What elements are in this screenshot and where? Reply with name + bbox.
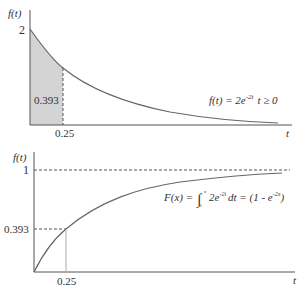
y-axis-label: f(t) [8, 7, 22, 20]
x-tick-025: 0.25 [57, 275, 77, 287]
pdf-chart: f(t) 2 0.393 0.25 t f(t) = 2e-2tt ≥ 0 [8, 7, 292, 139]
svg-text:x: x [203, 189, 207, 194]
svg-text:0: 0 [199, 203, 202, 208]
y-tick-0393: 0.393 [4, 223, 29, 235]
svg-text:2e-2tdt = (1 - e-2x): 2e-2tdt = (1 - e-2x) [209, 191, 284, 204]
cdf-formula: F(x) = ∫ 0 x 2e-2tdt = (1 - e-2x) [163, 189, 284, 208]
area-label: 0.393 [34, 94, 59, 106]
x-axis-label: t [286, 127, 290, 139]
shaded-area [30, 29, 63, 125]
svg-text:F(x) =: F(x) = [163, 191, 193, 204]
cdf-curve [34, 173, 282, 272]
pdf-curve [30, 29, 278, 123]
cdf-chart: f(t) 1 0.393 0.25 t F(x) = ∫ 0 x 2e-2tdt… [4, 151, 297, 287]
pdf-formula: f(t) = 2e-2tt ≥ 0 [209, 93, 278, 107]
figure: f(t) 2 0.393 0.25 t f(t) = 2e-2tt ≥ 0 f(… [0, 0, 300, 300]
y-tick-1: 1 [23, 163, 29, 177]
y-tick-2: 2 [19, 23, 25, 37]
x-tick-025: 0.25 [55, 127, 75, 139]
x-axis-label: t [293, 274, 297, 286]
